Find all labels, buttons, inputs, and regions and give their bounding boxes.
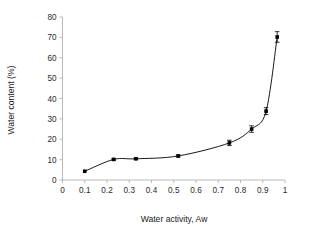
y-axis-title: Water content (%) — [6, 65, 16, 134]
y-tick-label: 0 — [52, 176, 57, 185]
data-point-marker — [176, 154, 180, 158]
x-tick-label: 0.8 — [235, 186, 247, 195]
data-point-marker — [83, 169, 87, 173]
x-axis-title: Water activity, Aw — [141, 214, 208, 224]
y-tick-label: 50 — [47, 74, 57, 83]
data-point-marker — [275, 35, 279, 39]
sorption-isotherm-chart: 01020304050607080 00.10.20.30.40.50.60.7… — [0, 0, 315, 232]
y-tick-label: 40 — [47, 95, 57, 104]
x-tick-label: 1 — [283, 186, 288, 195]
y-tick-label: 10 — [47, 156, 57, 165]
y-tick-label: 70 — [47, 33, 57, 42]
data-point-marker — [250, 127, 254, 131]
x-tick-label: 0.6 — [190, 186, 202, 195]
y-tick-label: 20 — [47, 135, 57, 144]
x-tick-label: 0.9 — [257, 186, 269, 195]
x-tick-label: 0.1 — [79, 186, 91, 195]
x-tick-label: 0.4 — [146, 186, 158, 195]
data-point-marker — [228, 141, 232, 145]
x-tick-label: 0.5 — [168, 186, 180, 195]
data-point-marker — [134, 157, 138, 161]
y-tick-label: 60 — [47, 54, 57, 63]
data-point-marker — [264, 109, 268, 113]
x-tick-label: 0.3 — [124, 186, 136, 195]
data-point-marker — [112, 158, 116, 162]
chart-container: 01020304050607080 00.10.20.30.40.50.60.7… — [0, 0, 315, 232]
x-tick-label: 0 — [60, 186, 65, 195]
y-tick-label: 30 — [47, 115, 57, 124]
y-tick-label: 80 — [47, 13, 57, 22]
x-tick-label: 0.7 — [213, 186, 225, 195]
x-tick-label: 0.2 — [101, 186, 113, 195]
